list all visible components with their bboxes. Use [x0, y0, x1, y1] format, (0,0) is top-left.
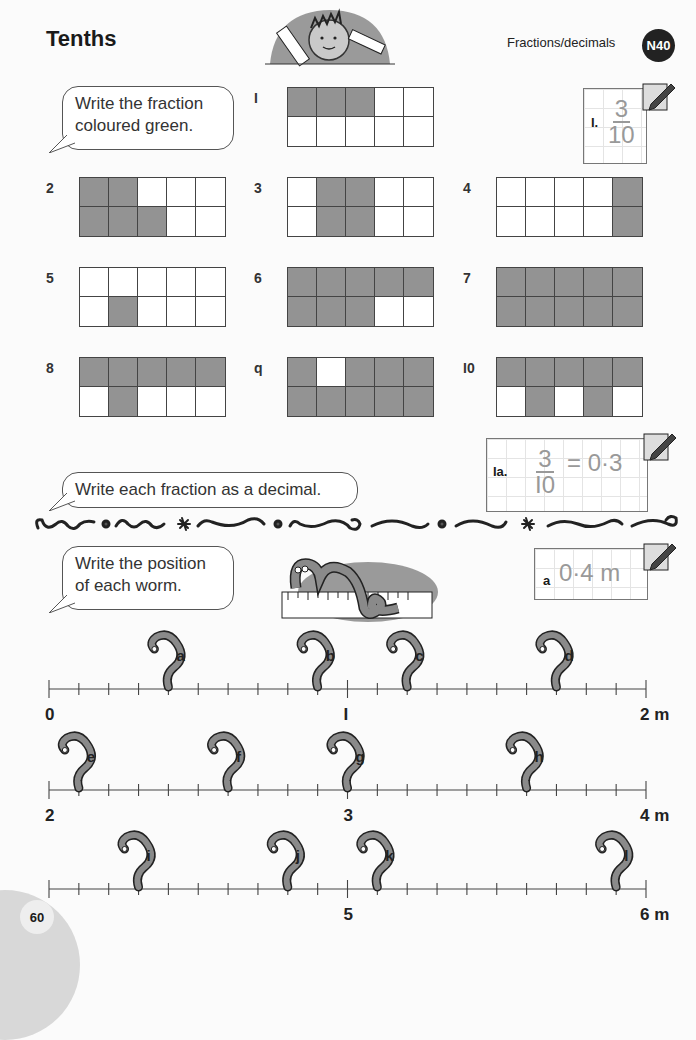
empty-cell: [346, 117, 375, 146]
empty-cell: [497, 387, 526, 416]
instruction-text: Write the fraction: [75, 93, 221, 115]
question-number: 5: [46, 270, 54, 286]
question-number: 7: [463, 270, 471, 286]
shaded-cell: [375, 268, 404, 297]
tenths-grid: [287, 87, 434, 147]
child-with-pencil-illustration: [265, 6, 395, 70]
empty-cell: [167, 207, 196, 236]
shaded-cell: [555, 358, 584, 387]
empty-cell: [375, 117, 404, 146]
example-label: Ia.: [493, 464, 507, 479]
empty-cell: [167, 387, 196, 416]
shaded-cell: [167, 358, 196, 387]
page-title: Tenths: [46, 26, 116, 52]
topic-label: Fractions/decimals: [507, 35, 615, 50]
shaded-cell: [404, 268, 433, 297]
example-answer-box: I. 3 10: [583, 88, 647, 164]
shaded-cell: [346, 358, 375, 387]
empty-cell: [80, 297, 109, 326]
worm-label: l: [624, 847, 628, 864]
worm-label: i: [147, 847, 151, 864]
example-fraction: 3 10: [608, 97, 635, 147]
speech-tail-icon: [49, 135, 75, 153]
shaded-cell: [584, 297, 613, 326]
shaded-cell: [346, 387, 375, 416]
tenths-grid: [287, 177, 434, 237]
shaded-cell: [317, 88, 346, 117]
fraction-numerator: 3: [536, 447, 553, 473]
worm-label: d: [564, 647, 573, 664]
question-number: q: [254, 360, 263, 376]
shaded-cell: [526, 297, 555, 326]
instruction-text: Write each fraction as a decimal.: [75, 479, 345, 501]
tenths-grid: [496, 357, 643, 417]
axis-label-end: 6 m: [640, 905, 669, 925]
empty-cell: [584, 207, 613, 236]
shaded-cell: [375, 358, 404, 387]
worm-label: j: [296, 847, 300, 864]
example-fraction: 3 I0: [535, 447, 555, 497]
instruction-bubble-decimal: Write each fraction as a decimal.: [62, 472, 358, 508]
empty-cell: [584, 178, 613, 207]
page-number: 60: [20, 900, 54, 934]
worm-label: f: [236, 748, 241, 765]
shaded-cell: [109, 358, 138, 387]
shaded-cell: [526, 268, 555, 297]
empty-cell: [138, 387, 167, 416]
shaded-cell: [80, 358, 109, 387]
fraction-numerator: 3: [613, 97, 630, 123]
shaded-cell: [497, 297, 526, 326]
worm-label: g: [356, 748, 365, 765]
example-decimal-box: Ia. 3 I0 = 0·3: [486, 438, 648, 512]
shaded-cell: [109, 178, 138, 207]
axis-label-mid: 5: [344, 905, 353, 925]
shaded-cell: [346, 268, 375, 297]
shaded-cell: [317, 268, 346, 297]
empty-cell: [167, 268, 196, 297]
empty-cell: [196, 178, 225, 207]
number-line: [0, 609, 696, 705]
worm-label: h: [535, 748, 544, 765]
shaded-cell: [109, 297, 138, 326]
empty-cell: [317, 358, 346, 387]
shaded-cell: [584, 387, 613, 416]
tenths-grid: [287, 267, 434, 327]
empty-cell: [497, 178, 526, 207]
instruction-text: of each worm.: [75, 575, 221, 597]
empty-cell: [288, 207, 317, 236]
shaded-cell: [526, 387, 555, 416]
shaded-cell: [317, 387, 346, 416]
shaded-cell: [346, 178, 375, 207]
shaded-cell: [346, 207, 375, 236]
shaded-cell: [288, 297, 317, 326]
shaded-cell: [80, 178, 109, 207]
shaded-cell: [346, 297, 375, 326]
tenths-grid: [79, 177, 226, 237]
pencil-icon: [641, 78, 677, 114]
empty-cell: [196, 297, 225, 326]
shaded-cell: [346, 88, 375, 117]
shaded-cell: [613, 358, 642, 387]
empty-cell: [526, 178, 555, 207]
example-position-box: a 0·4 m: [534, 548, 648, 600]
question-number: 4: [463, 180, 471, 196]
shaded-cell: [288, 358, 317, 387]
shaded-cell: [404, 387, 433, 416]
worm-label: k: [385, 847, 393, 864]
question-number: 2: [46, 180, 54, 196]
empty-cell: [288, 117, 317, 146]
empty-cell: [109, 268, 138, 297]
fraction-denominator: 10: [608, 123, 635, 147]
decorative-swirl-divider: [32, 512, 684, 538]
shaded-cell: [138, 207, 167, 236]
shaded-cell: [555, 268, 584, 297]
shaded-cell: [109, 207, 138, 236]
fraction-denominator: I0: [535, 473, 555, 497]
speech-tail-icon: [49, 493, 75, 511]
example-answer: 0·4 m: [559, 559, 620, 587]
empty-cell: [375, 297, 404, 326]
empty-cell: [555, 207, 584, 236]
empty-cell: [375, 178, 404, 207]
shaded-cell: [555, 297, 584, 326]
shaded-cell: [288, 88, 317, 117]
